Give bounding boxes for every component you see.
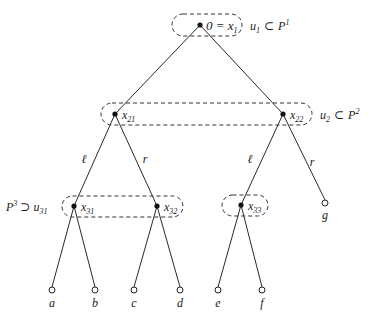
leaf-e-circle bbox=[215, 287, 221, 293]
game-tree-diagram: 0 = x1 x21 x22 x31 x32 x33 a b c d e f g… bbox=[0, 0, 372, 323]
tree-edges bbox=[52, 25, 325, 287]
u2-P-sup: 2 bbox=[355, 107, 359, 116]
leaf-a-label: a bbox=[49, 296, 55, 310]
root-label-sub: 1 bbox=[234, 26, 238, 35]
decision-nodes bbox=[71, 22, 285, 208]
x21-label: x21 bbox=[121, 108, 135, 124]
u1-relation: ⊂ bbox=[264, 19, 274, 33]
leaf-f-circle bbox=[259, 287, 265, 293]
infoset-u31-label: P3⊃u31 bbox=[5, 199, 47, 216]
edge-root-x22 bbox=[200, 25, 283, 114]
information-sets bbox=[62, 14, 312, 217]
infoset-u2-label: u2⊂P2 bbox=[320, 107, 359, 124]
edge-label-left-r: r bbox=[143, 152, 148, 166]
u31-relation: ⊃ bbox=[20, 200, 30, 214]
u31-P-sup: 3 bbox=[12, 199, 17, 208]
x31-label-sub: 31 bbox=[85, 207, 94, 216]
x22-label: x22 bbox=[289, 108, 303, 124]
edge-x31-b bbox=[74, 206, 95, 287]
node-x32-dot bbox=[154, 203, 159, 208]
infoset-labels: u1⊂P1 u2⊂P2 P3⊃u31 bbox=[5, 18, 359, 216]
edge-label-right-l: ℓ bbox=[248, 152, 253, 166]
leaf-labels: a b c d e f g bbox=[49, 208, 328, 310]
x32-label-sub: 32 bbox=[168, 207, 177, 216]
edge-x21-x32 bbox=[115, 114, 157, 206]
u2-relation: ⊂ bbox=[334, 108, 344, 122]
u1-P-sup: 1 bbox=[285, 18, 289, 27]
edge-x32-d bbox=[157, 206, 180, 287]
leaf-a-circle bbox=[49, 287, 55, 293]
node-x31-dot bbox=[71, 203, 76, 208]
leaf-d-circle bbox=[177, 287, 183, 293]
leaf-c-label: c bbox=[131, 296, 137, 310]
u1-sub: 1 bbox=[256, 26, 260, 35]
edge-x21-x31 bbox=[74, 114, 115, 206]
x21-label-sub: 21 bbox=[127, 115, 135, 124]
root-label-text: 0 = x bbox=[206, 18, 234, 33]
leaf-g-label: g bbox=[322, 208, 328, 222]
leaf-b-label: b bbox=[92, 296, 98, 310]
leaf-b-circle bbox=[92, 287, 98, 293]
edge-labels: ℓ r ℓ r bbox=[82, 152, 315, 169]
leaf-d-label: d bbox=[177, 296, 184, 310]
node-x21-dot bbox=[112, 111, 117, 116]
edge-x22-g bbox=[283, 114, 325, 200]
edge-label-left-l: ℓ bbox=[82, 152, 87, 166]
infoset-u1-label: u1⊂P1 bbox=[250, 18, 289, 35]
root-label: 0 = x1 bbox=[206, 18, 238, 35]
node-x33-dot bbox=[238, 202, 243, 207]
leaf-g-circle bbox=[322, 200, 328, 206]
u31-sub: 31 bbox=[38, 207, 47, 216]
leaf-c-circle bbox=[131, 287, 137, 293]
edge-label-right-r: r bbox=[310, 155, 315, 169]
leaf-f-label: f bbox=[260, 296, 265, 310]
edge-x33-e bbox=[218, 205, 241, 287]
leaf-e-label: e bbox=[215, 296, 221, 310]
edge-x33-f bbox=[241, 205, 262, 287]
x32-label: x32 bbox=[163, 200, 177, 216]
u2-sub: 2 bbox=[326, 115, 330, 124]
edge-x32-c bbox=[134, 206, 157, 287]
edge-root-x21 bbox=[115, 25, 200, 114]
x31-label: x31 bbox=[80, 200, 94, 216]
edge-x31-a bbox=[52, 206, 74, 287]
x33-label-sub: 33 bbox=[252, 206, 261, 215]
x22-label-sub: 22 bbox=[295, 115, 303, 124]
game-tree-svg: 0 = x1 x21 x22 x31 x32 x33 a b c d e f g… bbox=[0, 0, 372, 323]
node-x22-dot bbox=[280, 111, 285, 116]
node-root-dot bbox=[197, 22, 202, 27]
x33-label: x33 bbox=[247, 199, 261, 215]
